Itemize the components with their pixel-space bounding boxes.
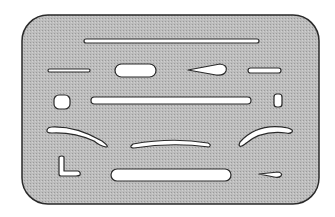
middle-long-slot (91, 97, 251, 104)
right-short-slot (248, 68, 281, 73)
small-rect-hole (274, 94, 282, 107)
erasing-shield-figure (0, 0, 335, 217)
bottom-long-slot (111, 169, 231, 181)
long-top-slot (84, 39, 259, 43)
erasing-shield-drawing (0, 0, 335, 217)
square-hole (54, 95, 70, 109)
oval-slot (115, 64, 156, 77)
short-left-slot (48, 69, 90, 72)
